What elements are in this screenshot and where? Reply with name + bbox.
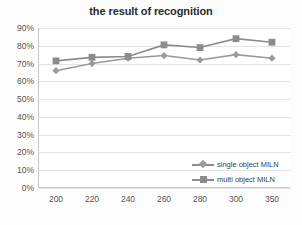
square-marker-icon — [233, 35, 240, 42]
x-tick-label: 220 — [75, 194, 109, 204]
diamond-marker-icon — [199, 160, 207, 168]
diamond-marker-icon — [232, 51, 239, 58]
x-tick-label: 240 — [111, 194, 145, 204]
chart-title: the result of recognition — [0, 5, 302, 17]
y-tick-label: 50% — [0, 95, 34, 104]
y-axis-labels: 90%80%70%60%50%40%30%20%10%0% — [0, 28, 34, 188]
square-marker-icon — [89, 54, 96, 61]
y-tick-label: 70% — [0, 60, 34, 69]
diamond-marker-icon — [52, 67, 59, 74]
y-tick-label: 90% — [0, 24, 34, 33]
legend-swatch-multi — [192, 174, 214, 185]
x-tick-label: 350 — [255, 194, 289, 204]
y-tick-label: 30% — [0, 131, 34, 140]
y-tick-label: 60% — [0, 77, 34, 86]
chart-legend: single object MILN multi object MILN — [192, 157, 296, 187]
square-marker-icon — [53, 57, 60, 64]
x-tick-label: 300 — [219, 194, 253, 204]
y-tick-label: 0% — [0, 184, 34, 193]
diamond-marker-icon — [88, 60, 95, 67]
x-tick-label: 260 — [147, 194, 181, 204]
legend-item-multi-object[interactable]: multi object MILN — [192, 172, 296, 187]
y-tick-label: 40% — [0, 113, 34, 122]
y-tick-label: 20% — [0, 148, 34, 157]
diamond-marker-icon — [268, 55, 275, 62]
legend-label-multi: multi object MILN — [217, 175, 275, 184]
square-marker-icon — [200, 176, 207, 183]
diamond-marker-icon — [160, 52, 167, 59]
legend-item-single-object[interactable]: single object MILN — [192, 157, 296, 172]
square-marker-icon — [161, 41, 168, 48]
y-tick-label: 10% — [0, 166, 34, 175]
square-marker-icon — [197, 44, 204, 51]
x-axis-labels: 200220240260280300350 — [38, 194, 290, 208]
diamond-marker-icon — [196, 56, 203, 63]
legend-swatch-single — [192, 159, 214, 170]
square-marker-icon — [125, 53, 132, 60]
legend-label-single: single object MILN — [217, 160, 279, 169]
gridline — [39, 188, 291, 189]
x-tick-label: 200 — [39, 194, 73, 204]
square-marker-icon — [269, 39, 276, 46]
y-tick-label: 80% — [0, 42, 34, 51]
chart-container: the result of recognition 90%80%70%60%50… — [0, 0, 302, 225]
x-tick-label: 280 — [183, 194, 217, 204]
